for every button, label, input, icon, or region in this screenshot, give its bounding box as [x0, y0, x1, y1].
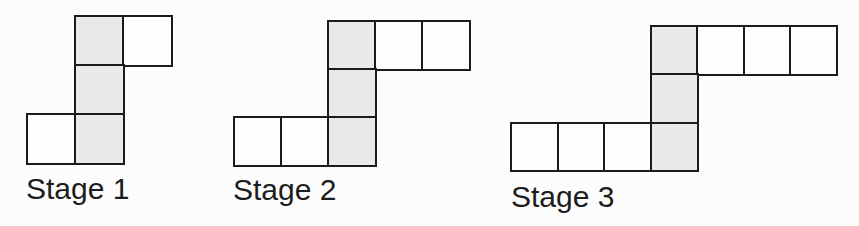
stage-2-square-r2-c2-shaded — [327, 116, 377, 167]
stage-2-square-r2-c1 — [280, 116, 330, 167]
stage-3-square-r2-c0 — [510, 122, 559, 173]
stage-3-square-r2-c1 — [557, 122, 606, 173]
stage-1-square-r0-c1-shaded — [74, 15, 125, 67]
stage-3-square-r1-c3-shaded — [650, 73, 699, 124]
stage-2-square-r1-c2-shaded — [327, 68, 377, 119]
stage-1-square-r0-c2 — [122, 15, 173, 67]
stage-3-square-r0-c6 — [789, 25, 838, 76]
stage-1-square-r1-c1-shaded — [74, 64, 125, 116]
stage-2-square-r0-c3 — [374, 20, 424, 71]
pattern-sequence-figure: Stage 1 Stage 2 Stage 3 — [0, 0, 859, 226]
stage-3-square-r2-c3-shaded — [650, 122, 699, 173]
stage-2-label: Stage 2 — [233, 175, 336, 205]
stage-3-label: Stage 3 — [511, 182, 614, 212]
stage-2-square-r0-c2-shaded — [327, 20, 377, 71]
stage-3-square-r0-c5 — [743, 25, 792, 76]
stage-2-square-r2-c0 — [233, 116, 283, 167]
stage-3-square-r0-c3-shaded — [650, 25, 699, 76]
stage-3-square-r2-c2 — [603, 122, 652, 173]
stage-1-label: Stage 1 — [26, 174, 129, 204]
stage-2-square-r0-c4 — [421, 20, 471, 71]
stage-1-square-r2-c0 — [26, 113, 77, 165]
stage-1-square-r2-c1-shaded — [74, 113, 125, 165]
stage-3-square-r0-c4 — [696, 25, 745, 76]
